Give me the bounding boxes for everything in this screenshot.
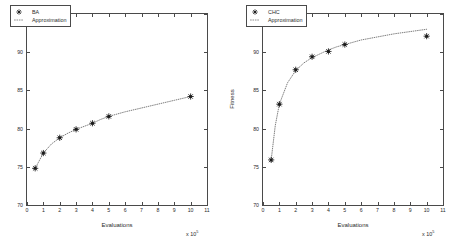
axes-box-chc (262, 13, 444, 206)
x-tick-label: 6 (124, 207, 127, 213)
plot-svg-chc (263, 14, 443, 205)
legend-entry-approximation: Approximation (250, 16, 302, 24)
data-point-marker (268, 157, 274, 163)
x-tick-mark (394, 202, 395, 205)
y-tick-label: 75 (8, 164, 23, 170)
y-tick-mark (263, 52, 266, 53)
x-tick-mark (158, 14, 159, 17)
y-tick-mark (27, 129, 30, 130)
y-tick-mark (440, 167, 443, 168)
x-axis-title-ba: Evaluations (26, 222, 208, 228)
x-tick-label: 4 (91, 207, 94, 213)
x-axis-exponent-ba: x 105 (186, 230, 198, 237)
x-tick-mark (361, 202, 362, 205)
x-tick-mark (109, 14, 110, 17)
y-tick-label: 70 (8, 202, 23, 208)
x-tick-mark (142, 202, 143, 205)
plot-svg-ba (27, 14, 207, 205)
x-tick-label: 3 (75, 207, 78, 213)
figure-two-panel-convergence-plots: 01234567891011 707580859095 Evaluations … (0, 0, 472, 249)
y-tick-mark (27, 167, 30, 168)
x-tick-mark (43, 202, 44, 205)
y-tick-mark (27, 90, 30, 91)
x-axis-exponent-chc: x 105 (422, 230, 434, 237)
y-tick-mark (204, 52, 207, 53)
data-point-marker (106, 113, 112, 119)
x-tick-mark (328, 14, 329, 17)
legend-label-approximation: Approximation (268, 16, 302, 24)
x-tick-label: 9 (173, 207, 176, 213)
data-point-marker (57, 135, 63, 141)
x-tick-mark (345, 202, 346, 205)
legend-ba: BA Approximation (10, 5, 71, 27)
y-tick-mark (440, 129, 443, 130)
y-axis-title-chc: Fitness (229, 89, 235, 108)
x-tick-mark (125, 202, 126, 205)
plot-area-chc (263, 14, 443, 205)
data-point-marker (73, 126, 79, 132)
approximation-curve (271, 29, 426, 160)
x-tick-label: 5 (107, 207, 110, 213)
y-tick-label: 70 (244, 202, 259, 208)
y-tick-mark (440, 205, 443, 206)
x-tick-mark (443, 202, 444, 205)
x-axis-exponent-value-chc: 5 (432, 230, 434, 234)
data-point-marker (325, 48, 331, 54)
x-tick-label: 2 (294, 207, 297, 213)
legend-entry-approximation: Approximation (14, 16, 66, 24)
x-tick-mark (410, 202, 411, 205)
star-marker-icon (250, 8, 268, 16)
y-tick-label: 85 (8, 87, 23, 93)
data-point-marker (342, 41, 348, 47)
y-tick-label: 80 (244, 126, 259, 132)
y-tick-mark (263, 90, 266, 91)
x-tick-label: 9 (409, 207, 412, 213)
x-tick-label: 0 (262, 207, 265, 213)
y-tick-mark (27, 52, 30, 53)
x-tick-label: 11 (204, 207, 209, 213)
x-tick-mark (92, 202, 93, 205)
y-tick-mark (204, 90, 207, 91)
data-point-marker (32, 165, 38, 171)
y-tick-mark (204, 129, 207, 130)
x-axis-exponent-prefix-ba: x 10 (186, 231, 196, 237)
dotted-line-icon (14, 16, 32, 24)
x-tick-mark (207, 202, 208, 205)
legend-label-series: CHC (268, 8, 280, 16)
y-tick-mark (204, 167, 207, 168)
y-tick-mark (440, 14, 443, 15)
x-tick-mark (76, 14, 77, 17)
y-tick-label: 90 (244, 49, 259, 55)
data-point-marker (293, 67, 299, 73)
data-point-marker (188, 93, 194, 99)
y-tick-mark (204, 14, 207, 15)
panel-chc: 01234567891011 707580859095 Evaluations … (236, 0, 472, 249)
x-axis-exponent-value-ba: 5 (196, 230, 198, 234)
x-tick-label: 0 (26, 207, 29, 213)
x-tick-mark (410, 14, 411, 17)
data-point-marker (309, 54, 315, 60)
y-tick-mark (440, 90, 443, 91)
star-marker-icon (14, 8, 32, 16)
x-tick-mark (361, 14, 362, 17)
legend-label-approximation: Approximation (32, 16, 66, 24)
x-tick-mark (394, 14, 395, 17)
y-tick-mark (204, 205, 207, 206)
x-tick-mark (174, 202, 175, 205)
x-tick-mark (443, 14, 444, 17)
y-tick-mark (440, 52, 443, 53)
data-point-marker (89, 120, 95, 126)
x-tick-mark (312, 14, 313, 17)
x-tick-mark (312, 202, 313, 205)
x-tick-mark (174, 14, 175, 17)
y-tick-mark (263, 167, 266, 168)
data-point-marker (424, 33, 430, 39)
x-tick-label: 8 (156, 207, 159, 213)
y-tick-label: 85 (244, 87, 259, 93)
x-tick-mark (191, 14, 192, 17)
x-tick-label: 3 (311, 207, 314, 213)
x-tick-mark (328, 202, 329, 205)
x-tick-mark (76, 202, 77, 205)
x-tick-mark (158, 202, 159, 205)
x-tick-label: 7 (376, 207, 379, 213)
